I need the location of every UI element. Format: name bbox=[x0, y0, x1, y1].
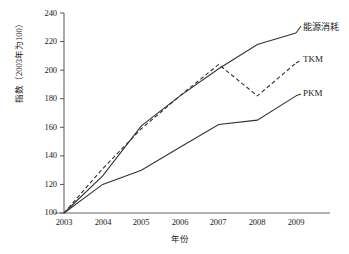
y-tick-label-160: 160 bbox=[31, 122, 57, 132]
y-tick-label-240: 240 bbox=[31, 8, 57, 18]
y-axis-title: 指数（2003年为100） bbox=[14, 19, 24, 103]
y-tick-marks bbox=[60, 13, 64, 213]
series-label-energy: 能源消耗 bbox=[303, 20, 339, 33]
x-axis-title: 年份 bbox=[150, 232, 210, 244]
y-tick-label-120: 120 bbox=[31, 179, 57, 189]
x-tick-label-2003: 2003 bbox=[47, 217, 81, 227]
x-tick-label-2009: 2009 bbox=[279, 217, 313, 227]
series-label-tkm: TKM bbox=[303, 54, 323, 64]
y-tick-label-220: 220 bbox=[31, 36, 57, 46]
line-chart: 240 220 200 180 160 140 120 100 2003 200… bbox=[0, 0, 349, 254]
y-tick-label-200: 200 bbox=[31, 65, 57, 75]
x-tick-label-2004: 2004 bbox=[86, 217, 120, 227]
series-label-pkm: PKM bbox=[303, 88, 323, 98]
y-tick-label-100: 100 bbox=[31, 207, 57, 217]
y-axis-title-wrap: 指数（2003年为100） bbox=[8, 0, 26, 126]
y-tick-label-180: 180 bbox=[31, 93, 57, 103]
series-line-energy bbox=[64, 33, 296, 213]
legend-leader-lines bbox=[296, 26, 301, 96]
x-tick-label-2007: 2007 bbox=[201, 217, 235, 227]
x-tick-label-2005: 2005 bbox=[124, 217, 158, 227]
y-tick-label-140: 140 bbox=[31, 150, 57, 160]
series-line-pkm bbox=[64, 96, 296, 213]
series-line-tkm bbox=[64, 63, 296, 213]
x-tick-label-2006: 2006 bbox=[163, 217, 197, 227]
x-tick-label-2008: 2008 bbox=[240, 217, 274, 227]
